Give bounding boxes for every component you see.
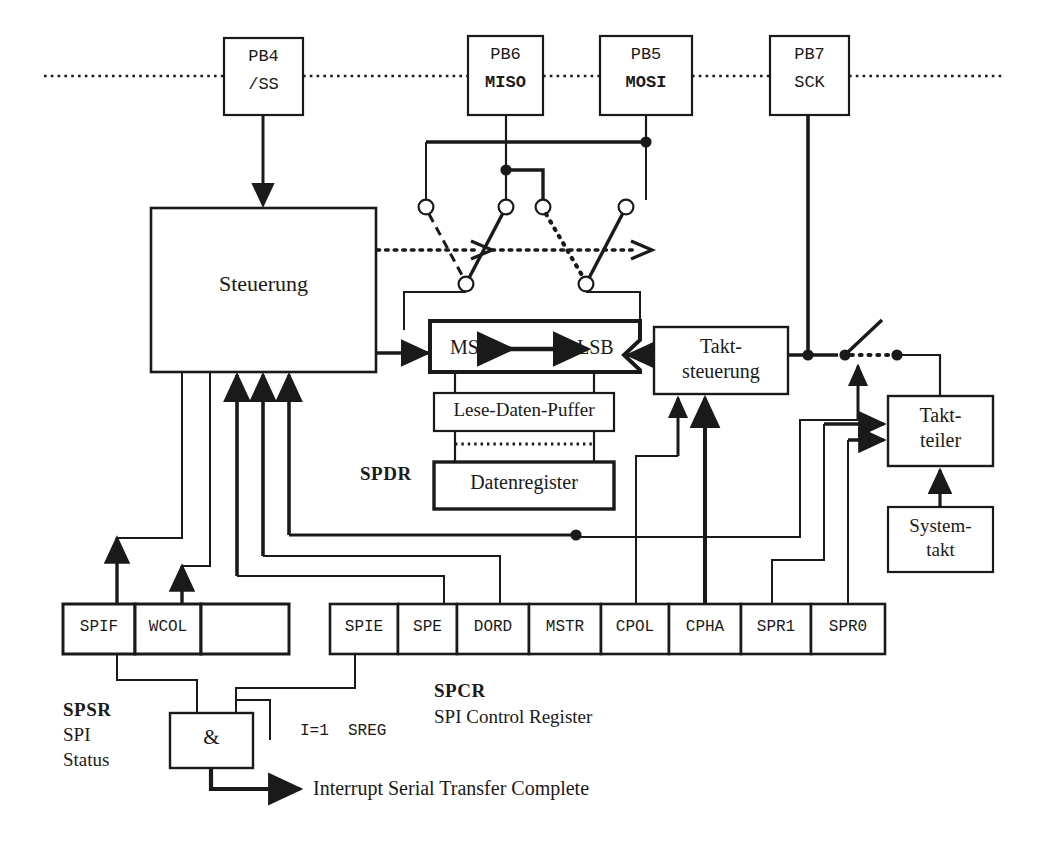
- spdr-label: SPDR: [360, 464, 412, 485]
- spie-route: [236, 654, 355, 713]
- spcr-bit-spie: SPIE: [330, 619, 398, 637]
- sck-switch-to-teiler: [897, 355, 940, 396]
- spsr-desc-line1: SPI: [63, 725, 90, 746]
- system-takt-label-line2: takt: [888, 540, 993, 561]
- spcr-name-label: SPCR: [434, 681, 486, 702]
- sck-switch-blade: [848, 320, 882, 352]
- shift-register-msb-label: MSB: [450, 336, 492, 358]
- pin-pb5-line1: PB5: [600, 46, 692, 65]
- spcr-bit-dord: DORD: [457, 619, 529, 637]
- spcr-bit-spe: SPE: [398, 619, 457, 637]
- mstr-route: [263, 556, 500, 604]
- takt-steuerung-label-line2: steuerung: [654, 360, 788, 382]
- spsr-bit-spif: SPIF: [63, 619, 135, 637]
- system-takt-label-line1: System-: [888, 516, 993, 537]
- datenregister-label: Datenregister: [434, 471, 614, 493]
- pin-pb6-line2: MISO: [468, 74, 543, 93]
- spcr-bit-cpha: CPHA: [669, 619, 741, 637]
- spsr-desc-line2: Status: [63, 750, 109, 771]
- switch-blade-solid-right: [589, 213, 623, 278]
- puffer-datenregister-links: [455, 431, 594, 462]
- cpol-route: [636, 456, 678, 604]
- lese-daten-puffer-label: Lese-Daten-Puffer: [434, 400, 614, 421]
- and-gate-label: &: [170, 726, 253, 749]
- sreg-label: I=1 SREG: [300, 723, 386, 741]
- switch-blade-dashed-left: [429, 214, 463, 277]
- pin-pb4-line2: /SS: [224, 76, 303, 95]
- spcr-bit-spr1: SPR1: [741, 619, 811, 637]
- pin-pb6-line1: PB6: [468, 46, 543, 65]
- interrupt-label: Interrupt Serial Transfer Complete: [313, 777, 589, 799]
- spsr-bit-wcol: WCOL: [135, 619, 201, 637]
- and-output: [211, 768, 300, 789]
- pin-pb7-line2: SCK: [770, 74, 849, 93]
- spsr-name-label: SPSR: [63, 700, 111, 721]
- spcr-desc-label: SPI Control Register: [434, 707, 592, 728]
- spcr-bit-spr0: SPR0: [811, 619, 885, 637]
- wcol-route: [182, 372, 210, 566]
- steuerung-label: Steuerung: [151, 272, 376, 296]
- pin-pb5-line2: MOSI: [600, 74, 692, 93]
- switch-control-route: [576, 420, 858, 537]
- pin-pb4-line1: PB4: [224, 48, 303, 67]
- switch-blade-dotted-right: [546, 214, 583, 277]
- takt-steuerung-label-line1: Takt-: [654, 335, 788, 357]
- switch-control-arrow-2: [631, 241, 652, 259]
- switch-miso-tap: [506, 170, 543, 200]
- spr1-route: [772, 424, 824, 604]
- shift-register-lsb-label: LSB: [577, 336, 614, 358]
- takt-teiler-label-line1: Takt-: [888, 404, 993, 426]
- dord-route: [237, 576, 444, 604]
- data-bus-dot: [570, 529, 581, 540]
- switch-terminals: [419, 200, 634, 292]
- spif-to-and: [117, 654, 197, 713]
- switch-blade-solid-left: [469, 213, 503, 278]
- takt-teiler-label-line2: teiler: [888, 429, 993, 451]
- pin-pb7-line1: PB7: [770, 46, 849, 65]
- spi-block-diagram: PB4 /SS PB6 MISO PB5 MOSI PB7 SCK Steuer…: [0, 0, 1049, 841]
- spif-route: [117, 372, 182, 538]
- spcr-bit-cpol: CPOL: [601, 619, 669, 637]
- shift-to-puffer-links: [455, 372, 594, 393]
- spcr-bit-mstr: MSTR: [529, 619, 601, 637]
